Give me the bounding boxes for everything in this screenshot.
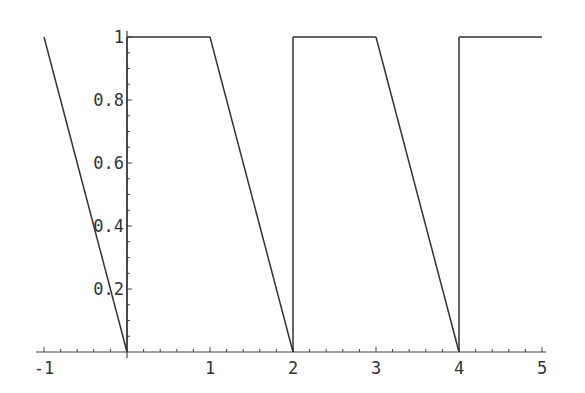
- y-tick-label: 0.8: [93, 90, 124, 110]
- series-group: [44, 37, 542, 352]
- axes: [36, 31, 546, 358]
- tick-labels: -1123450.20.40.60.81: [34, 27, 547, 378]
- x-tick-label: 1: [205, 358, 215, 378]
- series-segment: [44, 37, 127, 352]
- series-segment: [210, 37, 293, 352]
- y-tick-label: 1: [114, 27, 124, 47]
- chart: -1123450.20.40.60.81: [0, 0, 585, 393]
- y-tick-label: 0.4: [93, 216, 124, 236]
- x-tick-label: -1: [34, 358, 54, 378]
- x-tick-label: 4: [454, 358, 464, 378]
- x-tick-label: 2: [288, 358, 298, 378]
- x-tick-label: 5: [537, 358, 547, 378]
- y-tick-label: 0.6: [93, 153, 124, 173]
- x-tick-label: 3: [371, 358, 381, 378]
- series-segment: [376, 37, 459, 352]
